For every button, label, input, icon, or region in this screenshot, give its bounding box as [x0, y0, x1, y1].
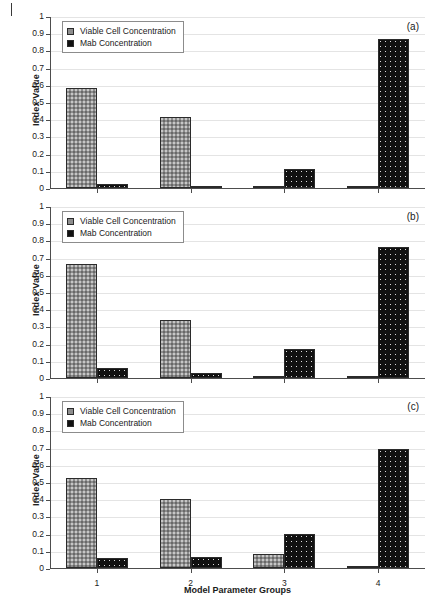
y-tick-label: 0.4 — [32, 494, 44, 504]
plot-area-b: Viable Cell Concentration Mab Concentrat… — [50, 207, 425, 379]
x-axis-line-a — [50, 188, 425, 189]
y-tick-label: 0.8 — [32, 235, 44, 245]
y-tick-label: 0.1 — [32, 356, 44, 366]
panel-tag-b: (b) — [407, 211, 419, 222]
y-tick-mark — [46, 207, 50, 208]
y-tick-label: 0.7 — [32, 443, 44, 453]
legend-swatch-icon-mab-b — [67, 230, 74, 237]
gridline — [51, 276, 425, 277]
chart-panel-c: Index Value Viable Cell Concentration Ma… — [0, 392, 437, 574]
bar-vcc-group-3 — [253, 554, 284, 568]
y-tick-mark — [46, 483, 50, 484]
bar-mab-group-1 — [97, 184, 128, 188]
y-tick-label: 0.5 — [32, 477, 44, 487]
y-tick-label: 0.7 — [32, 63, 44, 73]
bar-vcc-group-2 — [160, 320, 191, 378]
legend-a: Viable Cell Concentration Mab Concentrat… — [62, 21, 184, 53]
y-tick-mark — [46, 189, 50, 190]
y-tick-mark — [46, 517, 50, 518]
gridline — [51, 155, 425, 156]
y-tick-label: 0.6 — [32, 270, 44, 280]
gridline — [51, 137, 425, 138]
bar-mab-group-3 — [284, 349, 315, 378]
legend-entry-vcc-a: Viable Cell Concentration — [67, 25, 176, 37]
gridline — [51, 172, 425, 173]
y-tick-label: 0.9 — [32, 28, 44, 38]
gridline — [51, 86, 425, 87]
y-tick-label: 0.5 — [32, 97, 44, 107]
legend-entry-vcc-c: Viable Cell Concentration — [67, 405, 176, 417]
legend-label-mab-b: Mab Concentration — [80, 228, 152, 239]
y-tick-mark — [46, 552, 50, 553]
bar-vcc-group-1 — [66, 88, 97, 188]
plot-area-a: Viable Cell Concentration Mab Concentrat… — [50, 17, 425, 189]
x-tick-mark — [97, 379, 98, 383]
bar-vcc-group-4 — [347, 376, 378, 378]
x-tick-mark — [378, 189, 379, 193]
y-tick-mark — [46, 172, 50, 173]
y-tick-label: 0.6 — [32, 80, 44, 90]
y-tick-label: 0.8 — [32, 425, 44, 435]
x-tick-mark — [191, 189, 192, 193]
bar-mab-group-3 — [284, 169, 315, 188]
y-tick-label: 0.1 — [32, 546, 44, 556]
bar-mab-group-3 — [284, 534, 315, 568]
bar-vcc-group-3 — [253, 376, 284, 378]
y-tick-mark — [46, 535, 50, 536]
y-tick-mark — [46, 69, 50, 70]
gridline — [51, 449, 425, 450]
y-tick-mark — [46, 379, 50, 380]
y-tick-label: 0.7 — [32, 253, 44, 263]
y-tick-mark — [46, 310, 50, 311]
bar-mab-group-2 — [191, 186, 222, 188]
y-tick-mark — [46, 103, 50, 104]
plot-area-c: Viable Cell Concentration Mab Concentrat… — [50, 397, 425, 569]
x-tick-mark — [284, 189, 285, 193]
bar-vcc-group-1 — [66, 264, 97, 378]
bar-vcc-group-1 — [66, 478, 97, 568]
legend-entry-mab-c: Mab Concentration — [67, 417, 176, 429]
y-tick-label: 0.6 — [32, 460, 44, 470]
x-axis-line-c — [50, 568, 425, 569]
y-tick-mark — [46, 34, 50, 35]
y-tick-mark — [46, 345, 50, 346]
gridline — [51, 17, 425, 18]
legend-swatch-icon-vcc-c — [67, 408, 74, 415]
bar-mab-group-4 — [378, 39, 409, 188]
gridline — [51, 345, 425, 346]
y-tick-mark — [46, 569, 50, 570]
x-tick-mark — [191, 379, 192, 383]
legend-label-vcc-c: Viable Cell Concentration — [80, 406, 176, 417]
y-tick-mark — [46, 86, 50, 87]
gridline — [51, 517, 425, 518]
legend-label-mab-a: Mab Concentration — [80, 38, 152, 49]
y-tick-mark — [46, 17, 50, 18]
panel-tag-a: (a) — [407, 21, 419, 32]
y-tick-label: 0.8 — [32, 45, 44, 55]
chart-panel-b: Index Value Viable Cell Concentration Ma… — [0, 202, 437, 384]
y-tick-label: 0 — [39, 373, 44, 383]
gridline — [51, 103, 425, 104]
legend-swatch-icon-vcc-a — [67, 28, 74, 35]
y-tick-label: 0.1 — [32, 166, 44, 176]
gridline — [51, 483, 425, 484]
y-tick-label: 0.4 — [32, 114, 44, 124]
legend-label-mab-c: Mab Concentration — [80, 418, 152, 429]
bar-mab-group-1 — [97, 558, 128, 568]
y-tick-label: 0.4 — [32, 304, 44, 314]
y-tick-label: 0.9 — [32, 218, 44, 228]
y-tick-label: 1 — [39, 201, 44, 211]
gridline — [51, 69, 425, 70]
x-axis-title: Model Parameter Groups — [50, 585, 425, 595]
y-tick-mark — [46, 137, 50, 138]
legend-entry-vcc-b: Viable Cell Concentration — [67, 215, 176, 227]
y-tick-mark — [46, 500, 50, 501]
gridline — [51, 552, 425, 553]
y-tick-label: 1 — [39, 11, 44, 21]
figure-panel-group: Index Value Viable Cell Concentration Ma… — [0, 0, 437, 601]
y-tick-label: 1 — [39, 391, 44, 401]
y-tick-label: 0.2 — [32, 339, 44, 349]
x-tick-mark — [378, 569, 379, 573]
legend-c: Viable Cell Concentration Mab Concentrat… — [62, 401, 184, 433]
y-tick-mark — [46, 51, 50, 52]
